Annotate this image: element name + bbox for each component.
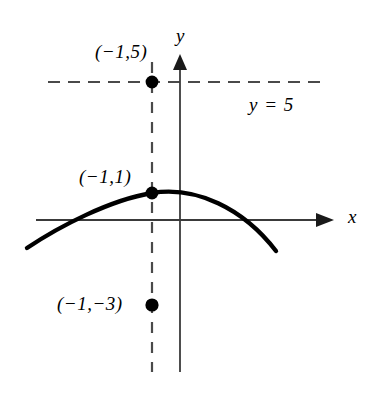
x-axis-label: x: [348, 207, 356, 226]
data-point-neg1-5: [146, 76, 159, 89]
data-point-neg1-1: [146, 187, 159, 200]
point-label-neg1-5: (−1,5): [95, 42, 147, 61]
figure-background: [0, 0, 383, 395]
point-label-neg1-1: (−1,1): [79, 167, 131, 186]
coordinate-plane-graphic: [0, 0, 383, 395]
line-equation-label-y5: y = 5: [249, 95, 294, 114]
point-label-neg1-neg3: (−1,−3): [57, 294, 123, 313]
y-axis-label: y: [176, 26, 184, 45]
data-point-neg1-neg3: [145, 298, 158, 311]
